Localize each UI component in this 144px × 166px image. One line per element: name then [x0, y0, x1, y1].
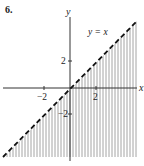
y-tick-label-2: 2	[61, 56, 66, 66]
problem-number: 6.	[5, 4, 13, 15]
x-axis-label: x	[138, 82, 144, 93]
y-axis-label: y	[65, 6, 71, 17]
inequality-graph: 6. y x y = x −2 2 2 −2	[0, 0, 144, 166]
y-tick-label-neg2: −2	[58, 109, 68, 119]
line-label: y = x	[87, 27, 108, 37]
x-tick-label-neg2: −2	[37, 92, 47, 102]
x-tick-label-2: 2	[93, 92, 98, 102]
